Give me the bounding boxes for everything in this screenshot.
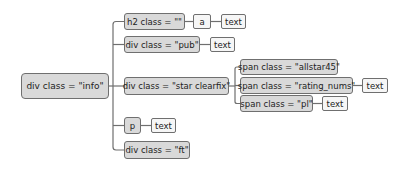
node-h2: h2 class = ""	[124, 13, 185, 30]
node-span-rating-nums: span class = "rating_nums"	[240, 77, 353, 94]
node-label: span class = "rating_nums"	[238, 81, 355, 91]
node-label: div class = "ft"	[125, 145, 188, 155]
node-label: h2 class = ""	[127, 17, 182, 27]
node-label: span class = "allstar45"	[238, 62, 340, 72]
node-label: text	[155, 121, 172, 131]
node-rating-text: text	[362, 78, 388, 93]
node-pub-text: text	[210, 37, 235, 52]
node-label: text	[367, 81, 384, 91]
node-label: text	[225, 17, 242, 27]
node-label: div class = "info"	[26, 81, 103, 91]
node-label: a	[199, 17, 204, 27]
node-div-star-clearfix: div class = "star clearfix"	[124, 77, 229, 95]
node-pl-text: text	[322, 96, 348, 111]
node-label: span class = "pl"	[240, 99, 312, 109]
node-span-pl: span class = "pl"	[240, 95, 313, 112]
node-div-info: div class = "info"	[21, 73, 109, 99]
node-a: a	[193, 14, 211, 29]
node-label: p	[130, 121, 135, 131]
node-div-ft: div class = "ft"	[124, 141, 190, 159]
node-div-pub: div class = "pub"	[124, 36, 200, 53]
node-p-text: text	[151, 118, 176, 133]
node-label: text	[327, 99, 344, 109]
node-label: div class = "star clearfix"	[123, 81, 230, 91]
node-h2-a-text: text	[221, 14, 246, 29]
node-label: text	[214, 40, 231, 50]
dom-tree-diagram: div class = "info" h2 class = "" a text …	[0, 0, 407, 172]
node-label: div class = "pub"	[125, 40, 198, 50]
node-p: p	[124, 117, 141, 134]
node-span-allstar45: span class = "allstar45"	[240, 59, 338, 75]
